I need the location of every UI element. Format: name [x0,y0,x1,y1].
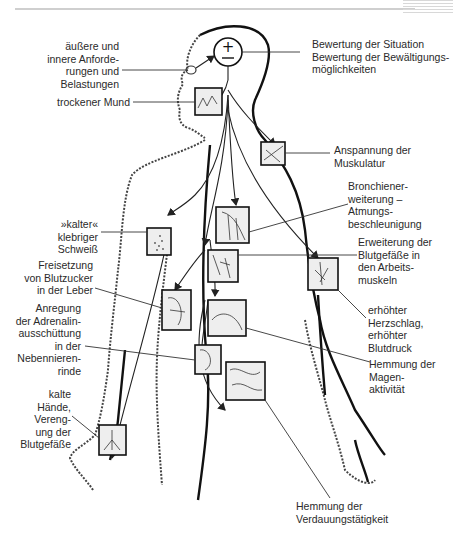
label-blood-sugar: Freisetzung von Blutzucker in der Leber [0,259,93,297]
label-appraisal: Bewertung der Situation Bewertung der Be… [312,38,460,76]
label-cold-hands: kalte Hände, Vereng- ung der Blutgefäße [0,388,71,451]
label-heart-rate: erhöhter Herzschlag, erhöhter Blutdruck [368,304,458,354]
label-dry-mouth: trockener Mund [0,96,130,109]
label-stomach: Hemmung der Magen- aktivität [369,358,459,396]
label-bronchial: Bronchiener- weiterung – Atmungs- beschl… [348,180,458,230]
liver-box [162,290,191,330]
label-adrenaline: Anregung der Adrenalin- ausschüttung in … [0,302,81,377]
body-outline-solid [110,26,385,500]
mouth-box [195,88,222,115]
label-demands: äußere und innere Anforde- rungen und Be… [10,40,119,90]
label-vessel-dilation: Erweiterung der Blutgefäße in den Arbeit… [358,236,458,286]
label-muscle-tension: Anspannung der Muskulatur [334,144,454,169]
label-cold-sweat: »kalter« klebriger Schweiß [20,218,98,256]
appraisal-symbol: + [214,38,242,66]
heart-box [308,258,338,290]
adrenal-box [195,345,221,374]
sweat-box [147,228,171,255]
plus-minus-icon: + [222,38,235,56]
vessel-box [208,250,238,282]
label-digestion: Hemmung der Verdauungstätigkeit [296,500,446,525]
intestine-box [226,362,265,400]
